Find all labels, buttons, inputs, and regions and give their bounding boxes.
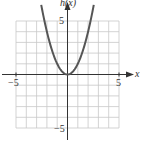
y-max-tick-label: 5 [59, 16, 64, 26]
x-min-tick-label: −5 [8, 78, 19, 88]
y-axis-label: h(x) [60, 0, 76, 8]
graph-plot [0, 0, 157, 151]
x-axis-label: x [135, 69, 139, 79]
y-min-tick-label: −5 [54, 124, 65, 134]
x-max-tick-label: 5 [116, 78, 121, 88]
axes [2, 2, 134, 140]
